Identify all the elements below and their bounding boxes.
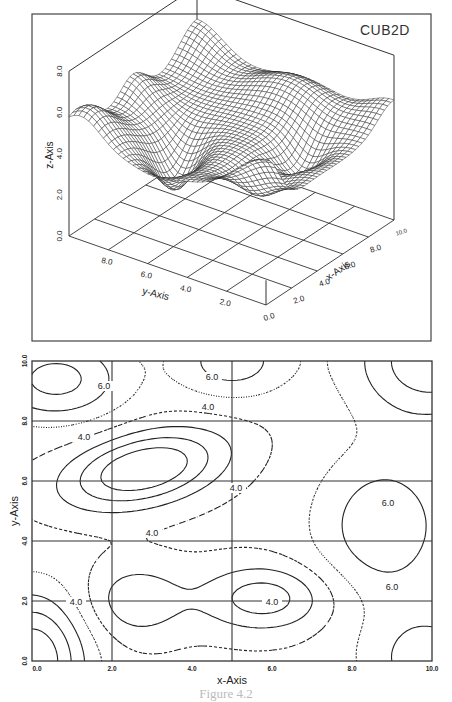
svg-text:6.0: 6.0	[21, 476, 28, 485]
svg-text:6.0: 6.0	[386, 582, 399, 592]
figure-caption: Figure 4.2	[0, 686, 452, 702]
svg-text:z-Axis: z-Axis	[44, 141, 55, 168]
svg-text:0.0: 0.0	[55, 230, 64, 242]
surface-mesh	[69, 19, 394, 196]
svg-text:0.0: 0.0	[262, 311, 276, 323]
svg-text:4.0: 4.0	[230, 483, 243, 493]
svg-text:4.0: 4.0	[146, 528, 159, 538]
svg-text:6.0: 6.0	[140, 270, 153, 281]
svg-text:4.0: 4.0	[266, 597, 279, 607]
svg-text:8.0: 8.0	[101, 256, 114, 267]
svg-text:0.0: 0.0	[32, 665, 41, 672]
svg-text:6.0: 6.0	[382, 498, 395, 508]
svg-text:6.0: 6.0	[55, 106, 64, 118]
svg-text:6.0: 6.0	[98, 381, 111, 391]
svg-text:2.0: 2.0	[21, 596, 28, 605]
svg-text:4.0: 4.0	[70, 597, 83, 607]
svg-text:4.0: 4.0	[55, 147, 64, 159]
svg-text:4.0: 4.0	[179, 283, 192, 294]
svg-text:x-Axis: x-Axis	[217, 674, 247, 686]
svg-text:8.0: 8.0	[347, 665, 356, 672]
contour-axis-ticks: 0.02.04.06.08.010.00.02.04.06.08.010.0x-…	[8, 354, 439, 686]
svg-text:2.0: 2.0	[219, 297, 232, 308]
contour-plot-panel: 6.06.04.04.04.04.06.04.06.04.0 0.02.04.0…	[8, 354, 439, 686]
svg-text:4.0: 4.0	[78, 432, 91, 442]
svg-text:8.0: 8.0	[21, 416, 28, 425]
svg-text:6.0: 6.0	[267, 665, 276, 672]
svg-text:10.0: 10.0	[426, 665, 439, 672]
svg-text:y-Axis: y-Axis	[8, 496, 20, 526]
svg-text:4.0: 4.0	[187, 665, 196, 672]
svg-text:4.0: 4.0	[202, 402, 215, 412]
svg-text:10.0: 10.0	[395, 227, 409, 237]
svg-text:2.0: 2.0	[55, 189, 64, 201]
svg-text:10.0: 10.0	[21, 354, 28, 367]
svg-text:8.0: 8.0	[369, 242, 383, 254]
svg-text:4.0: 4.0	[21, 536, 28, 545]
svg-text:2.0: 2.0	[107, 665, 116, 672]
svg-text:6.0: 6.0	[206, 372, 219, 382]
svg-text:0.0: 0.0	[21, 656, 28, 665]
surface-plot-title: CUB2D	[360, 22, 410, 38]
svg-text:y-Axis: y-Axis	[141, 285, 170, 302]
surface-plot-panel: 0.02.04.06.08.02.04.06.08.00.02.04.06.08…	[32, 0, 431, 341]
svg-text:2.0: 2.0	[292, 293, 306, 305]
svg-text:8.0: 8.0	[55, 65, 64, 77]
